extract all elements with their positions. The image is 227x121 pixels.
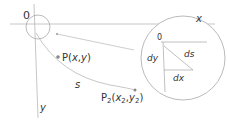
- zoom-pointer-line: [57, 34, 134, 50]
- arc-length-label: s: [75, 79, 80, 90]
- arc-length-diagram: 0 x y P(x,y) s P2(x2,y2) 0 dy ds dx: [0, 0, 227, 121]
- point-p: [56, 55, 60, 59]
- point-p-label: P(x,y): [62, 52, 91, 63]
- y-axis-label: y: [39, 102, 47, 113]
- dy-label: dy: [147, 53, 159, 63]
- ds-label: ds: [184, 49, 195, 59]
- dx-label: dx: [173, 73, 185, 83]
- y-axis: [34, 4, 38, 118]
- point-p2-label: P2(x2,y2): [101, 92, 143, 105]
- zoom-pointer-tip: [56, 33, 58, 35]
- inset-origin-label: 0: [157, 33, 162, 42]
- x-axis-label: x: [195, 13, 202, 24]
- origin-label: 0: [23, 9, 30, 22]
